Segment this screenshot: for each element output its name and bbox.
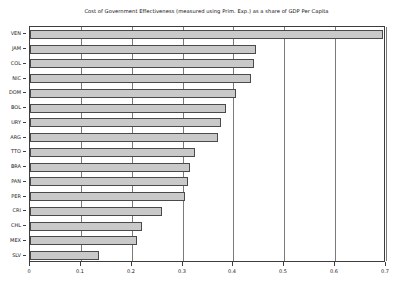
bar-dom [30,89,236,98]
bar-series [30,27,384,261]
y-label-jam: JAM [0,45,21,51]
bar-row [30,177,384,186]
y-tick [23,151,26,152]
x-tick [80,262,81,266]
y-label-ury: URY [0,119,21,125]
y-tick [23,166,26,167]
y-label-per: PER [0,193,21,199]
x-tick [232,262,233,266]
x-tick [131,262,132,266]
y-label-bra: BRA [0,163,21,169]
y-tick [23,33,26,34]
bar-jam [30,45,256,54]
bar-row [30,59,384,68]
y-label-mex: MEX [0,237,21,243]
y-label-arg: ARG [0,134,21,140]
y-tick [23,137,26,138]
y-tick [23,63,26,64]
y-tick [23,107,26,108]
y-tick [23,255,26,256]
bar-row [30,89,384,98]
x-tick-label: 0 [17,268,41,275]
y-label-pan: PAN [0,178,21,184]
bar-row [30,192,384,201]
bar-row [30,236,384,245]
x-tick-label: 0.7 [373,268,397,275]
x-tick [334,262,335,266]
x-tick-label: 0.5 [271,268,295,275]
x-tick-label: 0.2 [119,268,143,275]
y-label-cri: CRI [0,207,21,213]
x-tick [182,262,183,266]
bar-chl [30,222,142,231]
x-tick-label: 0.4 [220,268,244,275]
bar-col [30,59,254,68]
y-tick [23,78,26,79]
chart-title: Cost of Government Effectiveness (measur… [0,7,413,15]
bar-bol [30,104,226,113]
x-axis: 00.10.20.30.40.50.60.7 [29,262,385,282]
bar-ury [30,118,221,127]
bar-tto [30,148,195,157]
bar-bra [30,163,190,172]
bar-row [30,251,384,260]
x-tick-label: 0.1 [68,268,92,275]
x-tick [385,262,386,266]
bar-row [30,222,384,231]
bar-per [30,192,185,201]
bar-row [30,118,384,127]
gridline [386,27,387,261]
y-label-slv: SLV [0,252,21,258]
y-tick [23,122,26,123]
bar-row [30,74,384,83]
y-tick [23,225,26,226]
bar-nic [30,74,251,83]
bar-mex [30,236,137,245]
bar-pan [30,177,188,186]
y-label-nic: NIC [0,75,21,81]
x-tick [283,262,284,266]
bar-row [30,30,384,39]
bar-row [30,163,384,172]
y-tick [23,210,26,211]
y-tick [23,48,26,49]
chart-figure: Cost of Government Effectiveness (measur… [0,0,413,284]
bar-row [30,45,384,54]
y-label-col: COL [0,60,21,66]
bar-ven [30,30,383,39]
y-tick [23,181,26,182]
plot-area [29,26,385,262]
bar-arg [30,133,218,142]
y-tick [23,196,26,197]
bar-row [30,104,384,113]
x-tick-label: 0.6 [322,268,346,275]
y-label-bol: BOL [0,104,21,110]
x-tick [29,262,30,266]
y-label-ven: VEN [0,30,21,36]
bar-cri [30,207,162,216]
y-tick [23,240,26,241]
bar-row [30,133,384,142]
bar-row [30,148,384,157]
y-label-tto: TTO [0,148,21,154]
bar-row [30,207,384,216]
bar-slv [30,251,99,260]
y-label-chl: CHL [0,222,21,228]
y-tick [23,92,26,93]
y-axis-labels: VENJAMCOLNICDOMBOLURYARGTTOBRAPANPERCRIC… [0,26,26,262]
y-label-dom: DOM [0,89,21,95]
x-tick-label: 0.3 [170,268,194,275]
